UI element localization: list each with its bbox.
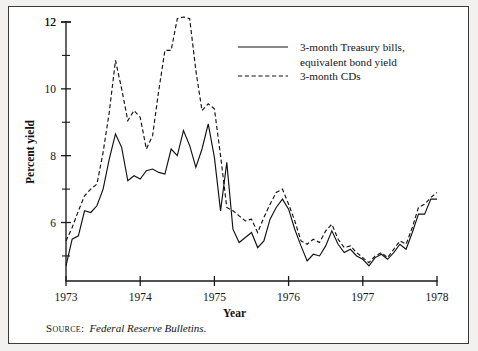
legend-label-treasury-line2: equivalent bond yield (300, 56, 397, 68)
legend-label-cds: 3-month CDs (300, 70, 361, 82)
y-axis-title: Percent yield (24, 119, 37, 184)
series-line-1 (66, 124, 437, 266)
series-line-2 (66, 17, 437, 263)
legend-label-treasury-line1: 3-month Treasury bills, (300, 41, 405, 53)
x-tick-label: 1974 (129, 291, 152, 303)
x-tick-label: 1978 (426, 291, 449, 303)
source-title: Federal Reserve Bulletins. (89, 322, 206, 334)
x-tick-label: 1975 (203, 291, 226, 303)
y-tick-label: 12 (45, 16, 57, 28)
source-note: Source:Federal Reserve Bulletins. (46, 322, 206, 334)
x-tick-label: 1976 (277, 291, 300, 303)
chart-legend: 3-month Treasury bills,equivalent bond y… (238, 41, 405, 82)
source-label: Source: (46, 322, 84, 334)
figure-container: 68101212197319741975197619771978 YearPer… (0, 0, 478, 351)
x-axis-title: Year (223, 307, 246, 319)
y-tick-label: 10 (45, 83, 57, 95)
data-series (66, 17, 437, 266)
y-tick-label: 6 (50, 217, 56, 229)
x-tick-label: 1977 (351, 291, 374, 303)
y-tick-label: 8 (50, 150, 56, 162)
chart-plot: 68101212197319741975197619771978 YearPer… (0, 0, 478, 351)
x-tick-label: 1973 (55, 291, 78, 303)
